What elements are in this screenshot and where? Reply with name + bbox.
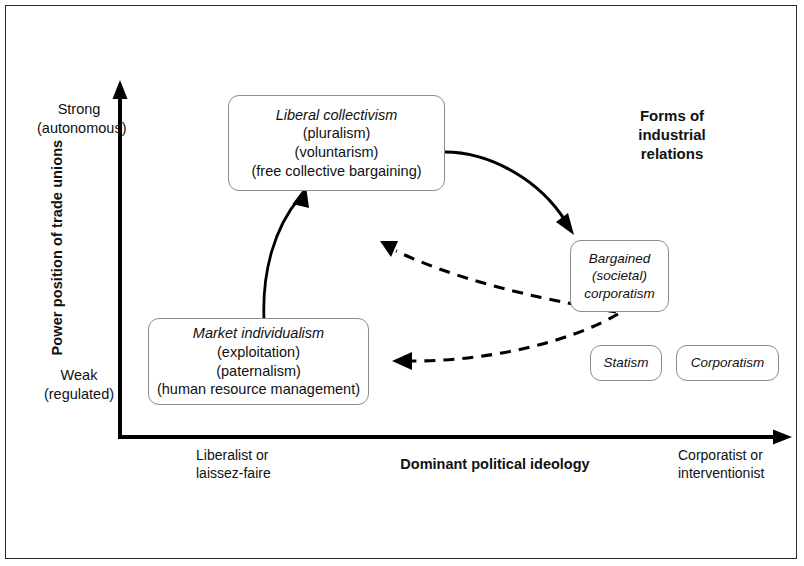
node-bargained-corporatism: Bargained (societal) corporatism: [570, 240, 669, 312]
y-axis-low-line-2: (regulated): [37, 385, 121, 404]
node-corporatism-label: Corporatism: [691, 354, 765, 371]
x-axis-arrowhead: [773, 430, 792, 445]
forms-heading-line-2: industrial: [592, 125, 752, 144]
y-axis-title: Power position of trade unions: [48, 128, 67, 368]
y-axis-high-line-1: Strong: [37, 100, 121, 119]
node-market-individualism-title: Market individualism: [193, 324, 324, 343]
y-axis-arrowhead: [113, 80, 128, 99]
x-axis-right-label: Corporatist or interventionist: [678, 447, 803, 483]
forms-heading-line-1: Forms of: [592, 106, 752, 125]
node-market-individualism: Market individualism (exploitation) (pat…: [148, 318, 369, 405]
x-axis-right-line-1: Corporatist or: [678, 447, 803, 465]
arrow-market-to-liberal: [264, 186, 309, 320]
x-axis-left-label: Liberalist or laissez-faire: [196, 447, 326, 483]
node-liberal-collectivism: Liberal collectivism (pluralism) (volunt…: [228, 95, 445, 191]
forms-heading-line-3: relations: [592, 144, 752, 163]
node-statism: Statism: [590, 345, 662, 381]
x-axis-left-line-2: laissez-faire: [196, 465, 326, 483]
arrow-liberal-to-bargained: [445, 152, 574, 235]
node-liberal-collectivism-title: Liberal collectivism: [276, 106, 398, 125]
arrow-bargained-to-market-dashed: [392, 314, 618, 370]
node-market-individualism-sub-1: (exploitation): [217, 343, 300, 362]
node-bargained-corporatism-line-3: corporatism: [584, 285, 655, 302]
node-liberal-collectivism-sub-3: (free collective bargaining): [251, 162, 421, 181]
node-bargained-corporatism-line-1: Bargained: [589, 250, 651, 267]
x-axis-right-line-2: interventionist: [678, 465, 803, 483]
x-axis-left-line-1: Liberalist or: [196, 447, 326, 465]
node-statism-label: Statism: [603, 354, 648, 371]
industrial-relations-diagram: Forms of industrial relations Strong (au…: [0, 0, 804, 566]
node-liberal-collectivism-sub-1: (pluralism): [303, 124, 371, 143]
x-axis-title: Dominant political ideology: [330, 455, 660, 474]
node-corporatism: Corporatism: [676, 345, 779, 381]
node-bargained-corporatism-line-2: (societal): [592, 267, 647, 284]
node-market-individualism-sub-3: (human resource management): [157, 380, 360, 399]
forms-of-industrial-relations-heading: Forms of industrial relations: [592, 106, 752, 164]
node-liberal-collectivism-sub-2: (voluntarism): [295, 143, 379, 162]
node-market-individualism-sub-2: (paternalism): [216, 362, 301, 381]
y-axis-low-label: Weak (regulated): [37, 366, 121, 403]
y-axis-low-line-1: Weak: [37, 366, 121, 385]
